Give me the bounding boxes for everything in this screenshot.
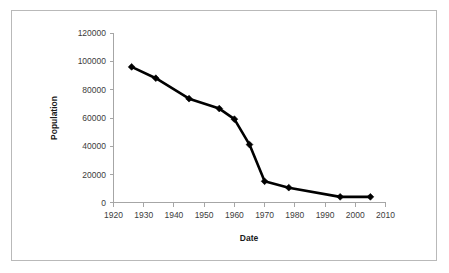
data-point-marker: [367, 193, 374, 200]
y-axis-tick-labels: 120000 100000 80000 60000 40000 20000 0: [78, 28, 107, 208]
x-axis-title: Date: [240, 233, 259, 243]
x-tick-label: 1920: [104, 210, 123, 220]
x-axis-tick-labels: 1920 1930 1940 1950 1960 1970 1980 1990 …: [104, 210, 395, 220]
y-axis-title: Population: [49, 96, 59, 140]
x-tick-label: 1930: [134, 210, 153, 220]
y-axis: [110, 33, 114, 203]
x-tick-label: 1940: [164, 210, 183, 220]
y-tick-label: 100000: [78, 56, 107, 66]
x-tick-label: 1970: [255, 210, 274, 220]
x-tick-label: 1980: [285, 210, 304, 220]
data-series-population: [128, 64, 374, 201]
y-tick-label: 40000: [82, 141, 106, 151]
y-tick-label: 20000: [82, 170, 106, 180]
data-point-marker: [285, 184, 292, 191]
chart-figure: 120000 100000 80000 60000 40000 20000 0: [0, 0, 449, 273]
y-tick-label: 80000: [82, 85, 106, 95]
line-chart: 120000 100000 80000 60000 40000 20000 0: [0, 0, 449, 273]
x-tick-label: 2000: [346, 210, 365, 220]
y-tick-label: 120000: [78, 28, 107, 38]
x-tick-label: 1960: [225, 210, 244, 220]
y-tick-label: 60000: [82, 113, 106, 123]
x-axis: [114, 203, 386, 207]
x-tick-label: 2010: [376, 210, 395, 220]
data-point-marker: [337, 193, 344, 200]
x-tick-label: 1950: [195, 210, 214, 220]
y-tick-label: 0: [101, 198, 106, 208]
x-tick-label: 1990: [316, 210, 335, 220]
